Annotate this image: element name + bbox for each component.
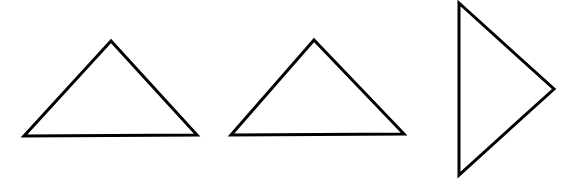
triangle-left [24, 41, 197, 136]
triangles-diagram [0, 0, 578, 188]
triangle-middle [231, 40, 404, 135]
triangle-right [459, 3, 554, 175]
